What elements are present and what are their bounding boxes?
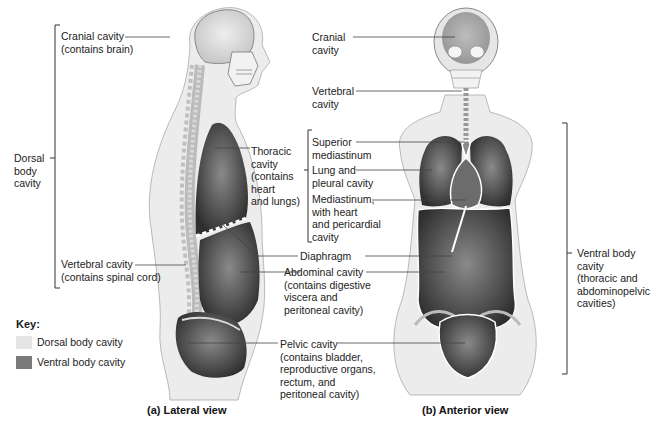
ventral-bracket [562,123,572,374]
label-vertebral-cavity-lateral: Vertebral cavity (contains spinal cord) [61,258,161,283]
label-dorsal-body-cavity: Dorsal body cavity [14,152,44,190]
dorsal-bracket [50,25,60,288]
label-pelvic-cavity: Pelvic cavity (contains bladder, reprodu… [280,338,376,401]
key-label-dorsal: Dorsal body cavity [37,336,123,349]
label-superior-mediastinum: Superior mediastinum [312,136,372,161]
label-cranial-cavity-lateral: Cranial cavity (contains brain) [61,30,133,55]
key-swatch-ventral [16,356,32,369]
label-ventral-body-cavity: Ventral body cavity (thoracic and abdomi… [577,247,650,310]
key-label-ventral: Ventral body cavity [37,356,125,369]
label-mediastinum: Mediastinum, with heart and pericardial … [312,193,381,243]
key-title: Key: [16,318,40,330]
label-cranial-cavity-anterior: Cranial cavity [312,31,345,56]
label-vertebral-cavity-anterior: Vertebral cavity [312,85,354,110]
label-lung-pleural-cavity: Lung and pleural cavity [312,164,373,189]
caption-anterior-view: (b) Anterior view [422,404,508,416]
label-thoracic-cavity: Thoracic cavity (contains heart and lung… [251,145,300,208]
label-diaphragm: Diaphragm [300,250,351,263]
thoracic-sub-bracket [304,130,312,242]
caption-lateral-view: (a) Lateral view [147,404,226,416]
label-abdominal-cavity: Abdominal cavity (contains digestive vis… [284,266,371,316]
key-swatch-dorsal [16,336,32,349]
anterior-body [394,8,536,395]
